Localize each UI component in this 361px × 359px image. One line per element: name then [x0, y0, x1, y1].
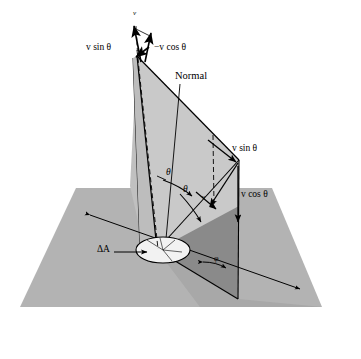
normal-label: Normal: [175, 71, 207, 82]
v-small-label: v: [202, 194, 205, 201]
minus-v-cos-theta-label: −v cos θ: [154, 43, 186, 53]
diagram-canvas: [0, 0, 361, 359]
delta-area-label: ΔA: [97, 245, 110, 255]
velocity-label: v: [133, 10, 136, 17]
physics-vector-diagram: v v sin θ −v cos θ Normal v sin θ v cos …: [0, 0, 361, 359]
v-sin-theta-right-label: v sin θ: [232, 144, 257, 154]
phi-label: φ: [214, 255, 218, 263]
theta-lower-label: θ: [183, 185, 188, 195]
theta-upper-label: θ: [166, 168, 171, 178]
v-cos-theta-right-label: v cos θ: [241, 190, 268, 200]
v-sin-theta-left-label: v sin θ: [86, 43, 111, 53]
